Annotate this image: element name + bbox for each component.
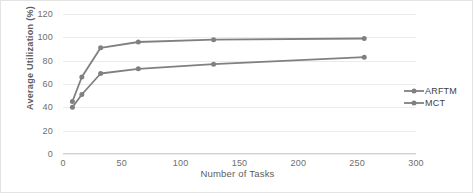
data-point-marker [211, 62, 216, 67]
x-tick-label: 300 [396, 158, 436, 168]
data-point-marker [211, 37, 216, 42]
x-tick-label: 150 [220, 158, 260, 168]
data-point-marker [70, 99, 75, 104]
y-tick-label: 20 [19, 127, 53, 136]
chart-figure: Average Utilization (%) 020406080100120 … [0, 0, 473, 193]
data-point-marker [98, 45, 103, 50]
y-tick-label: 100 [19, 33, 53, 42]
legend-item-arftm[interactable]: ARFTM [404, 85, 457, 97]
data-point-marker [362, 36, 367, 41]
data-point-marker [136, 40, 141, 45]
plot-area [63, 14, 416, 154]
series-layer [63, 14, 416, 154]
series-line [72, 39, 364, 102]
y-tick-label: 40 [19, 103, 53, 112]
chart-legend: ARFTMMCT [404, 85, 457, 109]
x-tick-label: 200 [278, 158, 318, 168]
legend-label: ARFTM [425, 86, 457, 96]
x-tick-label: 250 [337, 158, 377, 168]
x-tick-label: 0 [43, 158, 83, 168]
data-point-marker [70, 105, 75, 110]
x-axis-title: Number of Tasks [1, 168, 473, 179]
y-tick-label: 60 [19, 80, 53, 89]
y-tick-label: 80 [19, 57, 53, 66]
legend-label: MCT [425, 98, 445, 108]
data-point-marker [136, 66, 141, 71]
gridline [63, 154, 416, 155]
x-tick-label: 50 [102, 158, 142, 168]
data-point-marker [79, 92, 84, 97]
legend-marker-icon [404, 86, 424, 96]
y-tick-label: 120 [19, 10, 53, 19]
data-point-marker [98, 71, 103, 76]
series-arftm [70, 36, 367, 104]
y-axis-title: Average Utilization (%) [25, 0, 35, 133]
x-tick-label: 100 [161, 158, 201, 168]
data-point-marker [79, 75, 84, 80]
data-point-marker [362, 55, 367, 60]
series-line [72, 57, 364, 107]
legend-item-mct[interactable]: MCT [404, 97, 457, 109]
series-mct [70, 55, 367, 110]
legend-marker-icon [404, 98, 424, 108]
